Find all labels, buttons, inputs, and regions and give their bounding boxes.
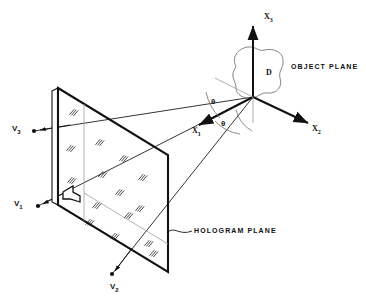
plate-notch-detail (63, 186, 80, 202)
object-plane-caption: OBJECT PLANE (291, 63, 358, 70)
axis-label-x3: X3 (264, 12, 273, 23)
source-dot-v3 (32, 129, 36, 133)
object-point-label-d: D (266, 68, 272, 77)
theta-arc-vertical (236, 110, 252, 131)
hologram-plane-caption: HOLOGRAM PLANE (194, 227, 277, 234)
axis-label-x2: X2 (312, 124, 321, 135)
source-label-v2: V2 (110, 282, 119, 293)
ray-v2-to-origin (112, 97, 253, 274)
hologram-plane-leader (168, 230, 192, 232)
axis-x2-line (253, 97, 308, 123)
source-label-v3: V3 (12, 124, 21, 135)
source-dot-v1 (36, 204, 40, 208)
hologram-plane-fold-lines (84, 104, 168, 244)
diagram-canvas (0, 0, 366, 306)
source-label-v1: V1 (14, 199, 23, 210)
angle-label-theta-lower: θ (221, 119, 225, 128)
theta-arc-lower (215, 121, 240, 134)
axis-label-x1: X1 (192, 126, 201, 137)
coordinate-axes-group (199, 26, 308, 125)
source-dot-v2 (110, 272, 114, 276)
speckle-marks-group (66, 109, 158, 257)
angle-label-theta-upper: θ (211, 97, 215, 106)
holography-geometry-figure: X3 X2 X1 θ θ D OBJECT PLANE HOLOGRAM PLA… (0, 0, 366, 306)
arrow-to-v2 (115, 248, 132, 271)
